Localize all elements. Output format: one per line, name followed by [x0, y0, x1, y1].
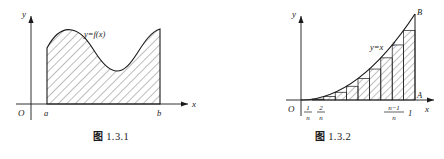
- tick-label-one-over-n: 1 n: [304, 104, 312, 122]
- origin-label: O: [18, 108, 25, 118]
- rectangle-7: [369, 69, 380, 100]
- x-axis-arrow-icon: [181, 101, 188, 106]
- tick-label-b: b: [157, 108, 161, 118]
- caption-number: 1.3.1: [106, 131, 129, 142]
- curve-label-base: y=x: [369, 42, 384, 52]
- point-label-a: A: [416, 90, 423, 100]
- tick-2n-denominator: n: [319, 114, 323, 122]
- figure-1-3-1: y x O a b y=f(x) 图 1.3.1: [0, 0, 222, 159]
- caption-number: 1.3.2: [328, 131, 351, 142]
- curve-label-exponent: 2: [392, 41, 395, 47]
- rectangle-10: [404, 30, 415, 100]
- figure-1-3-1-caption: 图 1.3.1: [0, 128, 222, 143]
- rectangle-8: [381, 58, 392, 100]
- tick-1n-denominator: n: [306, 114, 310, 122]
- y-axis-label: y: [21, 9, 26, 19]
- figure-1-3-2: y x O A B y=x 2 1 n 2 n: [222, 0, 444, 159]
- x-axis-label: x: [424, 104, 429, 114]
- rectangle-9: [392, 45, 403, 100]
- figure-page: y x O a b y=f(x) 图 1.3.1: [0, 0, 444, 159]
- rectangle-5: [347, 86, 358, 100]
- y-axis-label: y: [291, 9, 296, 19]
- tick-label-one: 1: [408, 108, 412, 118]
- inscribed-rectangles-group: [312, 30, 415, 100]
- shaded-region-under-curve: [47, 29, 160, 104]
- caption-cjk-tu: 图: [315, 131, 325, 142]
- tick-nm1n-numerator: n−1: [388, 104, 400, 112]
- tick-label-n-minus-one-over-n: n−1 n: [384, 104, 404, 122]
- origin-label: O: [288, 104, 295, 114]
- curve-label-fx: y=f(x): [83, 29, 105, 39]
- caption-cjk-tu: 图: [93, 131, 103, 142]
- figure-1-3-2-caption: 图 1.3.2: [222, 128, 444, 143]
- figure-1-3-2-graphic: y x O A B y=x 2 1 n 2 n: [222, 0, 444, 128]
- figure-1-3-1-graphic: y x O a b y=f(x): [0, 0, 222, 128]
- tick-1n-numerator: 1: [306, 104, 310, 112]
- x-axis-arrow-icon: [427, 97, 434, 102]
- tick-nm1n-denominator: n: [392, 114, 396, 122]
- y-axis-arrow-icon: [28, 16, 33, 23]
- point-label-b: B: [417, 7, 422, 17]
- tick-label-a: a: [44, 108, 48, 118]
- y-axis-arrow-icon: [298, 16, 303, 23]
- rectangle-6: [358, 79, 369, 101]
- x-axis-label: x: [191, 99, 196, 109]
- curve-label-x-squared: y=x 2: [369, 41, 395, 52]
- rectangle-3: [324, 97, 335, 100]
- tick-2n-numerator: 2: [319, 104, 323, 112]
- rectangle-4: [335, 92, 346, 100]
- tick-label-two-over-n: 2 n: [317, 104, 325, 122]
